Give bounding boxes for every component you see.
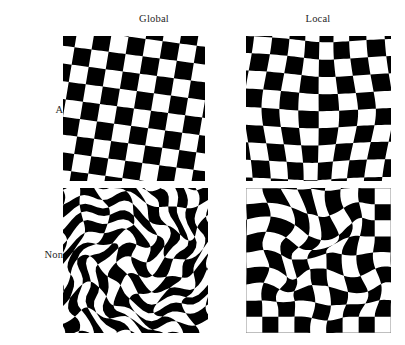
panel-affine-global [63, 36, 205, 181]
panel-nonrigid-global [63, 188, 208, 333]
panel-affine-local [246, 36, 391, 181]
column-header-local: Local [268, 13, 368, 25]
panel-nonrigid-local [246, 188, 391, 333]
figure-root: Global Local Affine Nonrigid [0, 0, 405, 345]
column-header-global: Global [104, 13, 204, 25]
